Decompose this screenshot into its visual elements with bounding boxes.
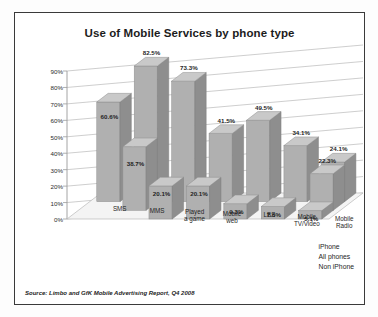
- chart-page: Use of Mobile Services by phone type 0%1…: [0, 0, 378, 317]
- chart-frame: Use of Mobile Services by phone type 0%1…: [14, 12, 365, 305]
- data-label: 20.1%: [190, 189, 208, 196]
- data-label: 34.1%: [292, 128, 310, 135]
- legend-item-all-phones: All phones: [318, 252, 354, 262]
- bar-chart-3d-scene: [39, 59, 339, 269]
- data-label: 60.6%: [101, 113, 119, 120]
- data-label: 38.7%: [127, 159, 145, 166]
- chart-legend: iPhone All phones Non iPhone: [318, 242, 354, 272]
- data-label: 49.5%: [255, 103, 273, 110]
- data-label: 24.1%: [330, 145, 348, 152]
- x-axis-category-label: MMS: [150, 207, 165, 214]
- x-axis-category-label: Played a game: [184, 208, 205, 222]
- x-axis-category-label: Mobile TV/Video: [294, 213, 320, 227]
- data-label: 41.5%: [218, 116, 236, 123]
- x-axis-category-label: LBS: [263, 211, 275, 218]
- data-label: 82.5%: [143, 49, 161, 56]
- source-note: Source: Limbo and GfK Mobile Advertising…: [25, 290, 194, 296]
- x-axis-category-label: Mobile web: [223, 210, 242, 224]
- x-axis-category-label: Mobile Radio: [335, 215, 354, 229]
- legend-item-iphone: iPhone: [318, 242, 354, 252]
- data-label: 20.1%: [153, 189, 171, 196]
- data-label: 22.3%: [319, 156, 337, 163]
- x-axis-category-label: SMS: [113, 205, 127, 212]
- legend-item-non-iphone: Non iPhone: [318, 262, 354, 272]
- data-label: 73.3%: [180, 64, 198, 71]
- chart-title: Use of Mobile Services by phone type: [15, 27, 364, 39]
- plot-area: 0%10%20%30%40%50%60%70%80%90% 24.1%34.1%…: [39, 59, 339, 249]
